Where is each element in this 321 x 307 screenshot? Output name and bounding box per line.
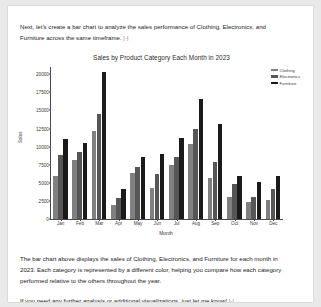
bar-group bbox=[130, 67, 145, 219]
bar bbox=[141, 157, 146, 219]
x-axis-tick-mark bbox=[138, 219, 139, 221]
bar bbox=[237, 176, 242, 219]
y-axis-tick-mark bbox=[49, 110, 51, 111]
bar bbox=[179, 138, 184, 219]
bar bbox=[276, 176, 281, 219]
bar bbox=[174, 157, 179, 219]
legend-item: Clothing bbox=[271, 68, 300, 73]
x-axis-tick-mark bbox=[80, 219, 81, 221]
legend-label: Electronics bbox=[280, 74, 300, 79]
y-axis-tick-label: 20000 bbox=[36, 72, 49, 77]
bar bbox=[135, 167, 140, 219]
y-axis-tick-label: 5000 bbox=[39, 180, 49, 185]
bar-group bbox=[227, 67, 242, 219]
intro-line-2-text: Furniture across the same timeframe. bbox=[20, 34, 122, 41]
x-axis-tick-mark bbox=[215, 219, 216, 221]
bar-group bbox=[150, 67, 165, 219]
y-axis-tick-mark bbox=[49, 74, 51, 75]
bar bbox=[130, 173, 135, 219]
x-axis-tick-mark bbox=[61, 219, 62, 221]
closing-line-1-text: If you need any further analysis or addi… bbox=[20, 297, 227, 302]
bar bbox=[227, 197, 232, 219]
y-axis-tick-label: 7500 bbox=[39, 162, 49, 167]
bar-group bbox=[72, 67, 87, 219]
y-axis-label: Sales bbox=[18, 132, 23, 144]
y-axis-tick-mark bbox=[49, 200, 51, 201]
intro-paragraph: Next, let's create a bar chart to analyz… bbox=[20, 21, 303, 44]
bar bbox=[53, 176, 58, 219]
bar bbox=[193, 129, 198, 219]
y-axis-tick-mark bbox=[49, 128, 51, 129]
x-axis-tick-mark bbox=[119, 219, 120, 221]
y-axis-tick-label: 15000 bbox=[36, 108, 49, 113]
bar-group bbox=[92, 67, 107, 219]
legend-swatch-icon bbox=[271, 75, 278, 78]
x-axis-tick-mark bbox=[235, 219, 236, 221]
bar bbox=[271, 189, 276, 219]
bar bbox=[160, 154, 165, 219]
bar bbox=[218, 124, 223, 219]
chart-title: Sales by Product Category Each Month in … bbox=[20, 54, 303, 61]
bar-group bbox=[266, 67, 281, 219]
summary-line-1: The bar chart above displays the sales o… bbox=[20, 253, 303, 264]
bar bbox=[63, 139, 68, 219]
summary-paragraph: The bar chart above displays the sales o… bbox=[20, 253, 303, 287]
collapse-marker-closing[interactable]: [-] bbox=[229, 298, 234, 302]
y-axis-tick-label: 10000 bbox=[36, 144, 49, 149]
intro-line-1: Next, let's create a bar chart to analyz… bbox=[20, 21, 303, 32]
x-axis-label: Month bbox=[50, 231, 282, 236]
legend-label: Clothing bbox=[280, 68, 295, 73]
y-axis-tick-label: 2500 bbox=[39, 198, 49, 203]
y-axis-tick-mark bbox=[49, 92, 51, 93]
y-axis-tick-mark bbox=[49, 182, 51, 183]
legend-swatch-icon bbox=[271, 69, 278, 72]
bar bbox=[77, 152, 82, 219]
bar bbox=[116, 198, 121, 219]
closing-paragraph: If you need any further analysis or addi… bbox=[20, 295, 303, 302]
bar bbox=[188, 144, 193, 219]
collapse-marker-intro[interactable]: [-] bbox=[123, 35, 128, 41]
bar bbox=[72, 160, 77, 219]
summary-line-3: performed relative to the others through… bbox=[20, 275, 303, 286]
x-axis-tick-label: Dec bbox=[258, 221, 288, 226]
x-axis-tick-mark bbox=[254, 219, 255, 221]
y-axis-tick-label: 17500 bbox=[36, 90, 49, 95]
bar bbox=[58, 155, 63, 219]
y-axis-tick-mark bbox=[49, 219, 51, 220]
chart-legend: ClothingElectronicsFurniture bbox=[269, 66, 302, 87]
y-axis-tick-label: 12500 bbox=[36, 126, 49, 131]
bar-group bbox=[169, 67, 184, 219]
bar bbox=[213, 162, 218, 219]
bar bbox=[232, 184, 237, 219]
y-axis-tick-mark bbox=[49, 164, 51, 165]
x-axis-tick-mark bbox=[157, 219, 158, 221]
bar bbox=[102, 72, 107, 219]
bar bbox=[257, 182, 262, 219]
document-page: Next, let's create a bar chart to analyz… bbox=[8, 6, 313, 302]
bar-group bbox=[53, 67, 68, 219]
y-axis-tick-mark bbox=[49, 146, 51, 147]
legend-item: Electronics bbox=[271, 74, 300, 79]
legend-label: Furniture bbox=[280, 81, 297, 86]
x-axis-tick-mark bbox=[177, 219, 178, 221]
legend-swatch-icon bbox=[271, 82, 278, 85]
plot-area: 02500500075001000012500150001750020000Ja… bbox=[50, 67, 283, 220]
bar-chart: Sales by Product Category Each Month in … bbox=[20, 54, 303, 246]
bar bbox=[111, 205, 116, 219]
bar bbox=[169, 165, 174, 219]
plot-area-wrapper: Sales 0250050007500100001250015000175002… bbox=[20, 65, 303, 233]
x-axis-tick-mark bbox=[99, 219, 100, 221]
bar bbox=[155, 174, 160, 219]
bar bbox=[92, 131, 97, 219]
x-axis-tick-mark bbox=[273, 219, 274, 221]
bar bbox=[97, 114, 102, 219]
x-axis-tick-mark bbox=[196, 219, 197, 221]
bar-group bbox=[188, 67, 203, 219]
bar bbox=[121, 189, 126, 219]
bar bbox=[266, 200, 271, 219]
bar bbox=[199, 99, 204, 219]
bar-group bbox=[111, 67, 126, 219]
legend-item: Furniture bbox=[271, 81, 300, 86]
summary-line-2: 2023. Each category is represented by a … bbox=[20, 264, 303, 275]
bar bbox=[246, 202, 251, 219]
